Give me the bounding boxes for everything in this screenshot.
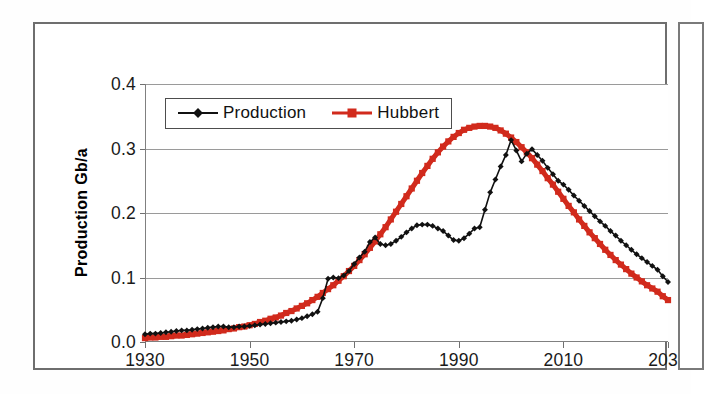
- data-point: [581, 223, 587, 229]
- x-tick-label: 1950: [230, 350, 270, 371]
- data-point: [586, 229, 592, 235]
- legend-item-production: Production: [178, 103, 306, 123]
- data-point: [309, 311, 315, 317]
- data-point: [330, 275, 336, 281]
- chart-legend: Production Hubbert: [165, 98, 452, 129]
- data-point: [388, 216, 394, 222]
- data-point: [456, 238, 462, 244]
- data-point: [283, 318, 289, 324]
- x-tick-mark: [668, 342, 669, 348]
- x-tick-label: 1990: [439, 350, 479, 371]
- data-point: [487, 189, 493, 195]
- data-point: [419, 170, 425, 176]
- data-point: [566, 203, 572, 209]
- data-point: [492, 176, 498, 182]
- x-tick-mark: [145, 342, 146, 348]
- data-point: [597, 241, 603, 247]
- legend-marker-production-icon: [178, 107, 218, 119]
- data-point: [555, 189, 561, 195]
- data-point: [414, 178, 420, 184]
- data-point: [529, 155, 535, 161]
- x-tick-mark: [459, 342, 460, 348]
- data-point: [592, 235, 598, 241]
- data-point: [430, 223, 436, 229]
- data-point: [424, 163, 430, 169]
- data-point: [382, 224, 388, 230]
- data-point: [571, 209, 577, 215]
- data-point: [419, 222, 425, 228]
- legend-label-hubbert: Hubbert: [377, 103, 439, 123]
- data-point: [304, 313, 310, 319]
- data-point: [424, 222, 430, 228]
- y-tick-label: 0.4: [111, 74, 136, 95]
- data-point: [560, 196, 566, 202]
- data-point: [503, 152, 509, 158]
- y-axis-title: Production Gb/a: [73, 84, 91, 342]
- data-point: [550, 182, 556, 188]
- data-point: [665, 297, 671, 303]
- data-point: [278, 319, 284, 325]
- x-tick-label: 2010: [544, 350, 584, 371]
- data-point: [325, 276, 331, 282]
- x-tick-mark: [250, 342, 251, 348]
- x-tick-mark: [563, 342, 564, 348]
- data-point: [576, 216, 582, 222]
- data-point: [288, 318, 294, 324]
- data-point: [539, 168, 545, 174]
- x-tick-label: 1970: [334, 350, 374, 371]
- adjacent-figure-frame: [678, 22, 704, 370]
- data-point: [477, 224, 483, 230]
- x-tick-label: 1930: [125, 350, 165, 371]
- data-point: [299, 315, 305, 321]
- data-point: [377, 231, 383, 237]
- data-point: [403, 193, 409, 199]
- legend-label-production: Production: [223, 103, 306, 123]
- data-point: [482, 207, 488, 213]
- data-point: [534, 162, 540, 168]
- data-point: [315, 309, 321, 315]
- data-point: [409, 185, 415, 191]
- data-point: [393, 209, 399, 215]
- data-point: [430, 156, 436, 162]
- x-tick-mark: [354, 342, 355, 348]
- legend-marker-hubbert-icon: [332, 107, 372, 119]
- data-point: [498, 164, 504, 170]
- data-point: [513, 147, 519, 153]
- legend-item-hubbert: Hubbert: [332, 103, 439, 123]
- chart-plot-area: 0.00.10.20.30.4 193019501970199020102030…: [145, 84, 668, 342]
- data-point: [294, 316, 300, 322]
- figure-frame: Production Gb/a 0.00.10.20.30.4 19301950…: [33, 22, 667, 370]
- data-point: [435, 149, 441, 155]
- data-point: [383, 242, 389, 248]
- y-tick-label: 0.2: [111, 203, 136, 224]
- data-point: [435, 226, 441, 232]
- y-tick-label: 0.1: [111, 267, 136, 288]
- data-point: [398, 201, 404, 207]
- y-tick-label: 0.3: [111, 138, 136, 159]
- data-point: [545, 175, 551, 181]
